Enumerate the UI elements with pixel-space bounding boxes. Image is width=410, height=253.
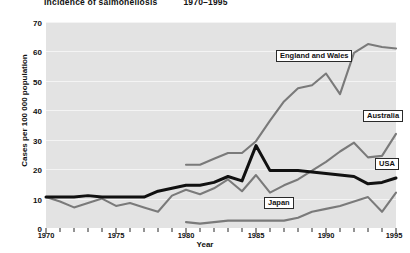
chart-title-text: Incidence of salmonellosis: [44, 0, 157, 7]
line-australia: [46, 134, 396, 212]
callout-usa: USA: [375, 158, 399, 170]
callout-england-and-wales: England and Wales: [276, 50, 352, 62]
chart-title: Incidence of salmonellosis1970–1995: [44, 0, 228, 7]
x-axis-label: Year: [0, 240, 410, 249]
chart-figure: Incidence of salmonellosis1970–1995 Case…: [0, 0, 410, 253]
y-tick-40: 40: [16, 107, 42, 116]
line-england-and-wales: [186, 44, 396, 165]
chart-title-years: 1970–1995: [183, 0, 227, 7]
y-tick-50: 50: [16, 78, 42, 87]
y-axis-ticks: 0 10 20 30 40 50 60 70: [12, 0, 42, 253]
axis-tick-marks: [46, 228, 396, 234]
y-tick-70: 70: [16, 19, 42, 28]
callout-australia: Australia: [363, 110, 403, 122]
y-tick-20: 20: [16, 166, 42, 175]
y-tick-10: 10: [16, 196, 42, 205]
x-tick-1995: 1995: [386, 231, 403, 240]
line-usa: [46, 146, 396, 198]
callout-japan: Japan: [264, 197, 294, 209]
y-tick-60: 60: [16, 48, 42, 57]
y-tick-30: 30: [16, 137, 42, 146]
